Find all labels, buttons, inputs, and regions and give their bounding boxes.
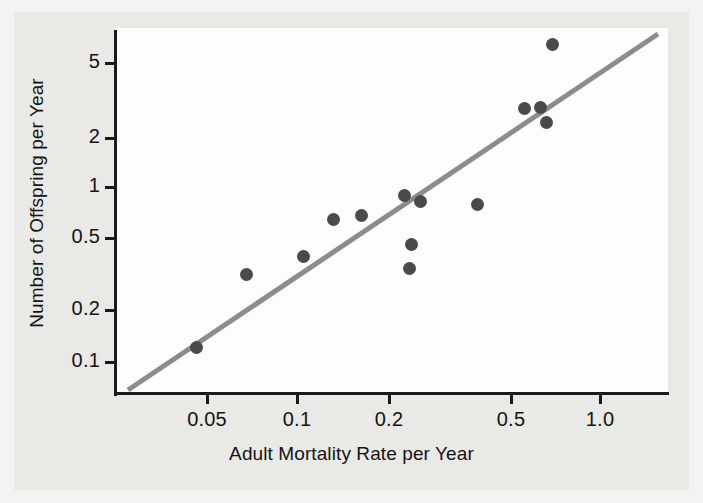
data-point	[405, 238, 418, 251]
x-axis-line	[114, 392, 669, 395]
data-point	[398, 189, 411, 202]
data-point	[297, 250, 310, 263]
y-axis-tick	[105, 309, 115, 312]
data-point	[534, 101, 547, 114]
y-axis-tick	[105, 137, 115, 140]
plot-canvas	[115, 28, 668, 394]
scatter-plot-figure: 5210.50.20.1 0.050.10.20.51.0 Adult Mort…	[0, 0, 703, 503]
x-axis-tick	[510, 394, 513, 404]
y-axis-tick-label: 2	[89, 125, 100, 148]
data-point	[546, 38, 559, 51]
y-axis-tick	[105, 361, 115, 364]
data-point	[540, 116, 553, 129]
data-point	[403, 262, 416, 275]
y-axis-tick	[105, 186, 115, 189]
data-point	[190, 341, 203, 354]
y-axis-line	[114, 30, 117, 396]
x-axis-tick-label: 0.5	[471, 408, 551, 431]
y-axis-tick-label: 0.5	[72, 225, 100, 248]
x-axis-tick-label: 0.2	[349, 408, 429, 431]
x-axis-tick	[296, 394, 299, 404]
x-axis-tick	[599, 394, 602, 404]
x-axis-tick	[206, 394, 209, 404]
y-axis-tick	[105, 237, 115, 240]
y-axis-tick-label: 0.1	[72, 349, 100, 372]
data-point	[471, 198, 484, 211]
data-point	[414, 195, 427, 208]
data-point	[518, 102, 531, 115]
y-axis-tick-label: 5	[89, 50, 100, 73]
x-axis-tick-label: 1.0	[560, 408, 640, 431]
x-axis-tick	[388, 394, 391, 404]
x-axis-tick-label: 0.05	[167, 408, 247, 431]
y-axis-title: Number of Offspring per Year	[26, 53, 48, 353]
data-point	[355, 209, 368, 222]
y-axis-tick-label: 1	[89, 174, 100, 197]
x-axis-tick-label: 0.1	[257, 408, 337, 431]
data-point	[240, 268, 253, 281]
x-axis-title: Adult Mortality Rate per Year	[0, 443, 703, 465]
y-axis-tick	[105, 62, 115, 65]
data-point	[327, 213, 340, 226]
y-axis-tick-label: 0.2	[72, 297, 100, 320]
